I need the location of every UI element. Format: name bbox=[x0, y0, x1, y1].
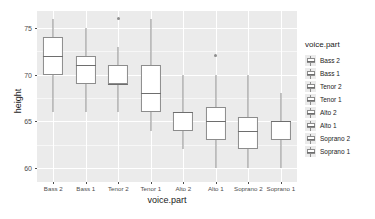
box-iqr bbox=[76, 56, 96, 84]
boxplot-group bbox=[135, 11, 168, 182]
boxplot-group bbox=[37, 11, 70, 182]
box-iqr bbox=[271, 121, 291, 140]
x-tick-label: Tenor 2 bbox=[108, 185, 129, 192]
y-tick-label: 65 bbox=[24, 118, 32, 125]
x-tick-label: Bass 2 bbox=[44, 185, 63, 192]
y-tick-mark bbox=[35, 121, 37, 122]
box-iqr bbox=[173, 112, 193, 131]
x-tick-mark bbox=[118, 182, 119, 184]
box-iqr bbox=[141, 65, 161, 112]
legend-item-label: Bass 1 bbox=[320, 70, 340, 77]
x-tick-mark bbox=[151, 182, 152, 184]
box-iqr bbox=[206, 107, 226, 140]
legend-key-boxplot-icon bbox=[305, 107, 316, 118]
legend-key-boxplot-icon bbox=[305, 146, 316, 157]
median-line bbox=[76, 65, 96, 66]
x-tick-label: Alto 2 bbox=[175, 185, 191, 192]
legend-item[interactable]: Bass 2 bbox=[305, 54, 375, 67]
y-tick-label: 60 bbox=[24, 165, 32, 172]
legend-item-label: Tenor 2 bbox=[320, 83, 342, 90]
x-tick-mark bbox=[281, 182, 282, 184]
legend-key-boxplot-icon bbox=[305, 133, 316, 144]
legend-items: Bass 2Bass 1Tenor 2Tenor 1Alto 2Alto 1So… bbox=[305, 54, 375, 158]
median-line bbox=[206, 121, 226, 122]
x-tick-label: Soprano 2 bbox=[234, 185, 263, 192]
legend-item-label: Soprano 2 bbox=[320, 135, 350, 142]
x-tick-label: Bass 1 bbox=[76, 185, 95, 192]
legend-key-boxplot-icon bbox=[305, 55, 316, 66]
boxplot-group bbox=[200, 11, 233, 182]
y-tick-label: 70 bbox=[24, 71, 32, 78]
median-line bbox=[141, 93, 161, 94]
legend-key-boxplot-icon bbox=[305, 94, 316, 105]
box-iqr bbox=[238, 117, 258, 150]
box-iqr bbox=[108, 65, 128, 84]
legend-key-boxplot-icon bbox=[305, 68, 316, 79]
legend-item-label: Alto 2 bbox=[320, 109, 337, 116]
legend-item-label: Tenor 1 bbox=[320, 96, 342, 103]
median-line bbox=[271, 121, 291, 122]
outlier-point bbox=[117, 17, 120, 20]
median-line bbox=[173, 112, 193, 113]
legend-item[interactable]: Soprano 2 bbox=[305, 132, 375, 145]
boxplot-group bbox=[232, 11, 265, 182]
legend-key-boxplot-icon bbox=[305, 81, 316, 92]
x-tick-mark bbox=[216, 182, 217, 184]
x-tick-label: Tenor 1 bbox=[140, 185, 161, 192]
boxplot-group bbox=[265, 11, 298, 182]
y-tick-mark bbox=[35, 168, 37, 169]
x-tick-mark bbox=[183, 182, 184, 184]
x-tick-mark bbox=[86, 182, 87, 184]
legend-key-boxplot-icon bbox=[305, 120, 316, 131]
legend-item[interactable]: Soprano 1 bbox=[305, 145, 375, 158]
x-tick-label: Alto 1 bbox=[208, 185, 224, 192]
boxplot-group bbox=[102, 11, 135, 182]
y-axis-title: height bbox=[13, 71, 23, 131]
legend-item-label: Bass 2 bbox=[320, 57, 340, 64]
x-axis-title: voice.part bbox=[37, 195, 297, 205]
x-tick-mark bbox=[53, 182, 54, 184]
median-line bbox=[108, 84, 128, 85]
outlier-point bbox=[214, 54, 217, 57]
y-tick-label: 75 bbox=[24, 24, 32, 31]
legend-item[interactable]: Tenor 1 bbox=[305, 93, 375, 106]
x-tick-mark bbox=[248, 182, 249, 184]
legend-item[interactable]: Alto 2 bbox=[305, 106, 375, 119]
boxplot-group bbox=[167, 11, 200, 182]
legend-item[interactable]: Tenor 2 bbox=[305, 80, 375, 93]
plot-panel bbox=[37, 11, 297, 182]
legend-item[interactable]: Bass 1 bbox=[305, 67, 375, 80]
legend-item[interactable]: Alto 1 bbox=[305, 119, 375, 132]
legend-title: voice.part bbox=[305, 40, 375, 49]
chart-root: 60657075 Bass 2Bass 1Tenor 2Tenor 1Alto … bbox=[0, 0, 375, 219]
x-tick-label: Soprano 1 bbox=[267, 185, 296, 192]
boxplot-group bbox=[70, 11, 103, 182]
median-line bbox=[43, 56, 63, 57]
y-tick-mark bbox=[35, 75, 37, 76]
y-tick-mark bbox=[35, 28, 37, 29]
median-line bbox=[238, 131, 258, 132]
legend-item-label: Alto 1 bbox=[320, 122, 337, 129]
legend: voice.part Bass 2Bass 1Tenor 2Tenor 1Alt… bbox=[305, 40, 375, 158]
legend-item-label: Soprano 1 bbox=[320, 148, 350, 155]
